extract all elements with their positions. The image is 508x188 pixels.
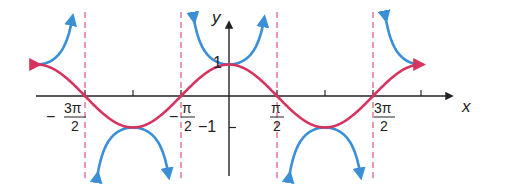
sec-branch bbox=[290, 128, 361, 176]
x-tick-sign-neg-pi-2: − bbox=[169, 108, 178, 125]
x-tick-den-neg-3pi-2: 2 bbox=[71, 118, 79, 134]
sec-branch bbox=[98, 128, 169, 176]
x-tick-num-pi-2: π bbox=[271, 100, 281, 116]
y-tick-label-1: 1 bbox=[213, 54, 222, 71]
sec-branch bbox=[386, 18, 421, 64]
x-tick-den-neg-pi-2: 2 bbox=[184, 118, 192, 134]
graph-canvas: x y 1 −1 − 3π 2 − π 2 π 2 3π 2 bbox=[0, 0, 508, 188]
trig-graph: x y 1 −1 − 3π 2 − π 2 π 2 3π 2 bbox=[0, 0, 508, 188]
x-tick-num-neg-pi-2: π bbox=[182, 100, 192, 116]
sec-branch bbox=[37, 18, 72, 64]
x-tick-sign-neg-3pi-2: − bbox=[46, 108, 55, 125]
x-axis-label: x bbox=[461, 97, 471, 116]
x-tick-num-3pi-2: 3π bbox=[374, 100, 392, 116]
x-tick-den-3pi-2: 2 bbox=[380, 118, 388, 134]
y-axis-label: y bbox=[211, 8, 222, 27]
x-tick-den-pi-2: 2 bbox=[273, 118, 281, 134]
x-tick-num-neg-3pi-2: 3π bbox=[64, 100, 82, 116]
y-tick-label-neg1: −1 bbox=[198, 118, 216, 135]
